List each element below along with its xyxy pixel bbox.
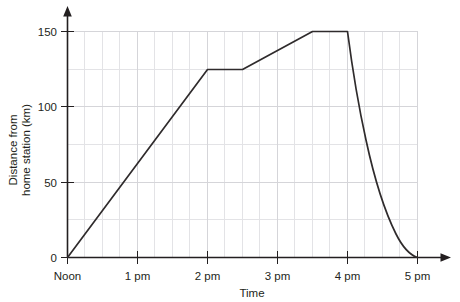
x-tick-label-5pm: 5 pm <box>405 270 431 282</box>
line-chart: 0 50 100 150 Noon 1 pm 2 pm 3 pm 4 pm 5 … <box>0 0 460 302</box>
x-tick-label-3pm: 3 pm <box>265 270 291 282</box>
y-tick-label-100: 100 <box>38 101 57 113</box>
y-tick-label-50: 50 <box>44 177 57 189</box>
right-arrow-icon <box>441 253 452 262</box>
y-axis-title-line1: Distance from <box>7 115 19 186</box>
x-tick-label-noon: Noon <box>54 270 82 282</box>
x-tick-label-4pm: 4 pm <box>335 270 361 282</box>
x-axis-title: Time <box>239 287 264 299</box>
chart-canvas: 0 50 100 150 Noon 1 pm 2 pm 3 pm 4 pm 5 … <box>0 0 460 302</box>
y-axis-title: Distance from home station (km) <box>7 104 32 196</box>
up-arrow-icon <box>63 6 72 17</box>
x-tick-labels: Noon 1 pm 2 pm 3 pm 4 pm 5 pm <box>54 270 431 282</box>
y-tick-label-0: 0 <box>51 252 57 264</box>
y-tick-labels: 0 50 100 150 <box>38 26 57 264</box>
y-tick-label-150: 150 <box>38 26 57 38</box>
x-tick-label-2pm: 2 pm <box>195 270 221 282</box>
minor-gridlines <box>68 32 418 258</box>
y-axis-title-line2: home station (km) <box>20 104 32 196</box>
x-tick-label-1pm: 1 pm <box>125 270 151 282</box>
